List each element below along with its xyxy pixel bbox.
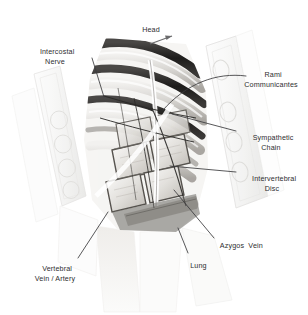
label-rami-communicantes: RamiCommunicantes (236, 61, 306, 89)
label-vertebral-vein-artery: VertebralVein / Artery (14, 255, 96, 283)
label-intercostal-nerve: IntercostalNerve (18, 38, 92, 66)
label-sympathetic-chain: SympatheticChain (238, 124, 304, 152)
label-head: Head (134, 25, 168, 34)
label-lung: Lung (186, 252, 226, 271)
label-azygos-vein: Azygos Vein (216, 232, 292, 251)
label-intervertebral-disc: IntervertebralDisc (238, 165, 306, 193)
